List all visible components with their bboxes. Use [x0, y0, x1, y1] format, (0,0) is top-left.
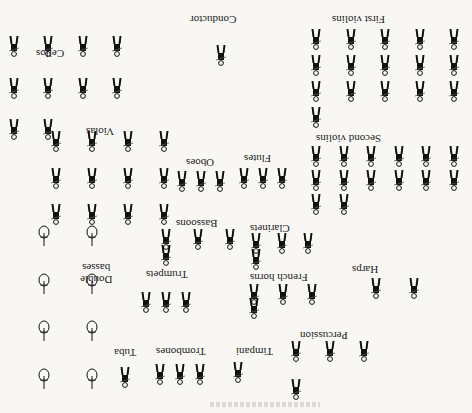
musician-icon [365, 145, 377, 167]
musician-icon [310, 106, 322, 128]
musician-icon [310, 80, 322, 102]
label-conductor: Conductor [190, 14, 236, 25]
musician-icon [338, 145, 350, 167]
musician-icon [38, 320, 50, 342]
musician-icon [345, 28, 357, 50]
musician-icon [86, 273, 98, 295]
label-oboes: Oboes [186, 157, 214, 168]
musician-icon [238, 167, 250, 189]
musician-icon [86, 203, 98, 225]
musician-icon [448, 80, 460, 102]
musician-icon [248, 297, 260, 319]
musician-icon [122, 130, 134, 152]
musician-icon [86, 225, 98, 247]
label-first-violins: First violins [332, 14, 385, 25]
label-tuba: Tuba [114, 347, 136, 358]
musician-icon [250, 248, 262, 270]
musician-icon [194, 363, 206, 385]
musician-icon [122, 167, 134, 189]
musician-icon [276, 167, 288, 189]
musician-icon [414, 54, 426, 76]
musician-icon [290, 340, 302, 362]
musician-icon [448, 54, 460, 76]
musician-icon [140, 291, 152, 313]
musician-icon [379, 28, 391, 50]
musician-icon [160, 291, 172, 313]
musician-icon [38, 368, 50, 390]
musician-icon [324, 340, 336, 362]
musician-icon [224, 228, 236, 250]
label-harps: Harps [352, 264, 378, 275]
musician-icon [379, 80, 391, 102]
musician-icon [180, 291, 192, 313]
musician-icon [86, 167, 98, 189]
musician-icon [302, 232, 314, 254]
label-timpani: Timpani [236, 346, 273, 357]
musician-icon [154, 363, 166, 385]
musician-icon [448, 145, 460, 167]
musician-icon [8, 77, 20, 99]
musician-icon [42, 77, 54, 99]
musician-icon [86, 320, 98, 342]
label-french-horns: French horns [250, 272, 308, 283]
musician-icon [214, 170, 226, 192]
musician-icon [174, 363, 186, 385]
musician-icon [158, 167, 170, 189]
musician-icon [192, 228, 204, 250]
musician-icon [38, 273, 50, 295]
musician-icon [448, 28, 460, 50]
musician-icon [111, 77, 123, 99]
musician-icon [160, 244, 172, 266]
musician-icon [77, 35, 89, 57]
musician-icon [158, 130, 170, 152]
musician-icon [195, 170, 207, 192]
musician-icon [306, 283, 318, 305]
musician-icon [277, 283, 289, 305]
musician-icon [370, 277, 382, 299]
musician-icon [86, 130, 98, 152]
musician-icon [345, 80, 357, 102]
musician-icon [50, 167, 62, 189]
musician-icon [448, 169, 460, 191]
musician-icon [50, 203, 62, 225]
label-second-violins: Second violins [316, 133, 381, 144]
musician-icon [414, 28, 426, 50]
musician-icon [77, 77, 89, 99]
musician-icon [38, 225, 50, 247]
musician-icon [379, 54, 391, 76]
musician-icon [290, 378, 302, 400]
musician-icon [119, 366, 131, 388]
musician-icon [86, 368, 98, 390]
musician-icon [420, 169, 432, 191]
musician-icon [310, 169, 322, 191]
musician-icon [358, 340, 370, 362]
musician-icon [158, 203, 170, 225]
musician-icon [393, 169, 405, 191]
musician-icon [310, 28, 322, 50]
label-flutes: Flutes [244, 153, 271, 164]
musician-icon [257, 167, 269, 189]
musician-icon [42, 35, 54, 57]
musician-icon [276, 232, 288, 254]
musician-icon [310, 193, 322, 215]
musician-icon [215, 44, 227, 66]
musician-icon [310, 54, 322, 76]
musician-icon [393, 145, 405, 167]
musician-icon [122, 203, 134, 225]
caption-text-faint [210, 402, 320, 407]
musician-icon [8, 118, 20, 140]
musician-icon [338, 193, 350, 215]
musician-icon [310, 145, 322, 167]
musician-icon [365, 169, 377, 191]
orchestra-seating-diagram: Conductor First violins Second violins C… [0, 0, 472, 413]
musician-icon [50, 130, 62, 152]
musician-icon [8, 35, 20, 57]
musician-icon [111, 35, 123, 57]
musician-icon [232, 361, 244, 383]
musician-icon [345, 54, 357, 76]
label-trombones: Trombones [156, 346, 206, 357]
musician-icon [408, 277, 420, 299]
label-trumpets: Trumpets [146, 269, 188, 280]
musician-icon [338, 169, 350, 191]
musician-icon [414, 80, 426, 102]
